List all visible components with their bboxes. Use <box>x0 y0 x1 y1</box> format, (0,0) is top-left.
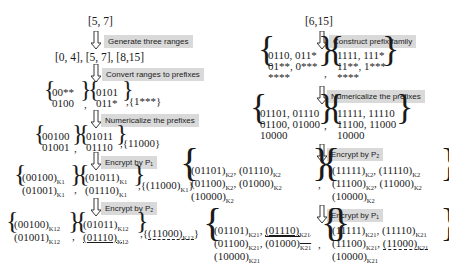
right-input-range: [6,15] <box>305 16 333 28</box>
down-arrow-icon <box>91 110 101 128</box>
prefix-set-3: ,{1***} <box>126 96 161 107</box>
numeric-set-3: ,{11000} <box>120 138 160 149</box>
left-input-range: [5, 7] <box>88 16 113 28</box>
step-label: Convert ranges to prefixes <box>102 68 204 81</box>
step-label: Encrypt by P₁ <box>101 156 157 169</box>
down-arrow-icon <box>91 31 101 49</box>
step-label: Encrypt by P₂ <box>101 202 157 215</box>
three-ranges: [0, 4], [5, 7], [8,15] <box>55 52 144 64</box>
step-label: Generate three ranges <box>104 35 193 48</box>
enc2-set-3: ,{(11000)K12} <box>140 228 199 243</box>
down-arrow-icon <box>91 198 101 216</box>
down-arrow-icon <box>91 152 101 170</box>
